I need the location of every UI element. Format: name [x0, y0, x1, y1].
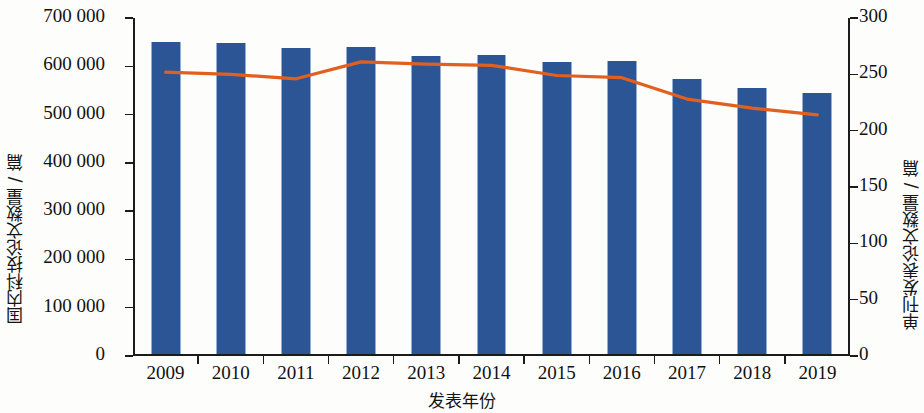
- y-axis-right-tick: [850, 243, 858, 245]
- x-axis-label-2015: 2015: [524, 362, 589, 384]
- chart-figure: 国内科技论文数量 / 篇 单刊发表论文数量 / 篇 发表年份 0100 0002…: [0, 0, 924, 413]
- y-axis-left-tick-label: 0: [0, 343, 105, 365]
- y-axis-right-tick: [850, 17, 858, 19]
- y-axis-left-tick: [125, 66, 133, 68]
- y-axis-left-tick: [125, 259, 133, 261]
- y-axis-right-tick-label: 150: [859, 174, 924, 196]
- y-axis-left-tick-label: 300 000: [0, 198, 105, 220]
- y-axis-right-tick: [850, 74, 858, 76]
- x-axis-label-2013: 2013: [394, 362, 459, 384]
- y-axis-right-tick: [850, 130, 858, 132]
- y-axis-left-tick: [125, 17, 133, 19]
- y-axis-left-tick: [125, 114, 133, 116]
- plot-area: 0100 000200 000300 000400 000500 000600 …: [133, 18, 850, 356]
- x-axis-label-2009: 2009: [133, 362, 198, 384]
- x-axis-label-2014: 2014: [459, 362, 524, 384]
- x-axis-label-2016: 2016: [589, 362, 654, 384]
- x-axis-label-2012: 2012: [329, 362, 394, 384]
- y-axis-right-tick: [850, 299, 858, 301]
- x-axis-label-2017: 2017: [654, 362, 719, 384]
- y-axis-right-tick: [850, 186, 858, 188]
- x-axis-title: 发表年份: [0, 387, 924, 412]
- x-axis-label-2011: 2011: [263, 362, 328, 384]
- y-axis-right-tick-label: 0: [859, 343, 924, 365]
- y-axis-left-tick: [125, 210, 133, 212]
- y-axis-left-tick-label: 500 000: [0, 102, 105, 124]
- y-axis-left-tick-label: 600 000: [0, 53, 105, 75]
- y-axis-left-tick: [125, 307, 133, 309]
- y-axis-right-tick-label: 100: [859, 230, 924, 252]
- line-series: [133, 18, 850, 356]
- y-axis-left-tick-label: 400 000: [0, 150, 105, 172]
- x-axis-label-2018: 2018: [720, 362, 785, 384]
- x-axis-label-2010: 2010: [198, 362, 263, 384]
- y-axis-left-tick: [125, 355, 133, 357]
- y-axis-right-tick-label: 200: [859, 118, 924, 140]
- y-axis-right-tick-label: 50: [859, 287, 924, 309]
- x-axis-label-2019: 2019: [785, 362, 850, 384]
- y-axis-left-tick: [125, 162, 133, 164]
- y-axis-left-tick-label: 200 000: [0, 246, 105, 268]
- y-axis-right-tick: [850, 355, 858, 357]
- y-axis-right-tick-label: 300: [859, 5, 924, 27]
- y-axis-right-tick-label: 250: [859, 61, 924, 83]
- y-axis-left-tick-label: 100 000: [0, 295, 105, 317]
- y-axis-left-tick-label: 700 000: [0, 5, 105, 27]
